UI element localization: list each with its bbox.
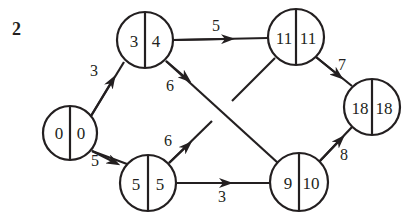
edge-weight-5-5-11-11: 6 — [164, 132, 172, 149]
edge-weight-0-3-4: 3 — [90, 62, 98, 79]
edge-weight-5-5-9-10: 3 — [218, 188, 226, 205]
edge-weight-9-10-18-18: 8 — [340, 146, 348, 163]
edge-0-to-3-4-arrow — [91, 81, 112, 116]
node-0-latest: 0 — [77, 124, 86, 143]
edge-11-11-to-18-18-arrow — [316, 57, 338, 75]
node-4-earliest: 9 — [284, 174, 293, 193]
network-diagram: 2 3 5 5 6 6 3 7 8 — [0, 0, 411, 214]
node-5-latest: 18 — [376, 99, 393, 118]
node-2-earliest: 5 — [132, 175, 141, 194]
edge-5-5-to-11-11-upper — [232, 58, 275, 101]
edge-3-4-to-11-11-arrow — [173, 39, 228, 40]
edge-3-4-to-9-10-arrow — [166, 61, 186, 78]
node-4-latest: 10 — [303, 174, 320, 193]
node-3-latest: 11 — [300, 29, 316, 48]
node-2-latest: 5 — [156, 175, 165, 194]
node-3-earliest: 11 — [276, 29, 292, 48]
question-number: 2 — [12, 19, 21, 39]
node-0-earliest: 0 — [55, 124, 64, 143]
edge-weight-0-5-5: 5 — [91, 152, 99, 169]
edge-weight-3-4-9-10: 6 — [166, 77, 174, 94]
edge-weight-11-11-18-18: 7 — [338, 56, 346, 73]
edge-weight-3-4-11-11: 5 — [212, 17, 220, 34]
node-1-earliest: 3 — [130, 32, 139, 51]
node-5-earliest: 18 — [352, 99, 369, 118]
node-1-latest: 4 — [152, 32, 161, 51]
edge-9-10-to-18-18-arrow — [318, 140, 340, 163]
